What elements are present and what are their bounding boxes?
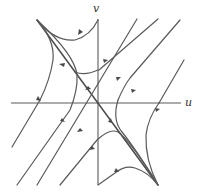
u-axis-label: u (185, 96, 192, 109)
curve-top-left-2 (75, 70, 98, 74)
phase-portrait (0, 0, 203, 195)
curve-left-outer (12, 20, 53, 147)
v-axis-label: v (93, 2, 99, 15)
curve-right-outer (146, 103, 159, 185)
arrow-icon (59, 63, 65, 67)
arrow-icon (116, 77, 121, 81)
trajectory-through-origin (37, 19, 137, 185)
trajectory-upper-3 (159, 60, 184, 103)
arrow-icon (77, 128, 83, 132)
arrow-icon (131, 89, 136, 93)
trajectory-upper-2 (118, 20, 180, 100)
arrow-icon (155, 108, 160, 112)
curve-top-left-1 (37, 20, 98, 40)
trajectory-upper-1 (99, 19, 158, 70)
arrow-icon (78, 29, 83, 35)
